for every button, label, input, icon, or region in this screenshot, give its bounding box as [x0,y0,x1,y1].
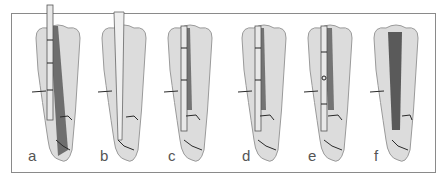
panel-label-a: a [28,148,36,163]
tooth-illustration-a [28,0,88,183]
panel-b: b [94,0,154,183]
panel-label-e: e [308,148,316,163]
panel-label-d: d [242,148,250,163]
panel-d: d [234,0,294,183]
panel-e: e [300,0,360,183]
panel-f: f [366,0,426,183]
panel-label-b: b [100,148,108,163]
panel-label-c: c [168,148,176,163]
panel-a: a [28,0,88,183]
panel-c: c [160,0,220,183]
panel-label-f: f [374,148,378,163]
